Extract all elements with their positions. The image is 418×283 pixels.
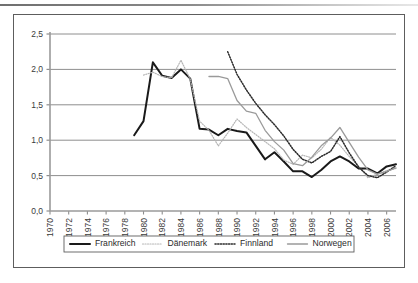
series-line-finnland <box>228 52 396 178</box>
x-axis-tick-label: 1994 <box>270 218 280 237</box>
x-axis-tick-label: 1980 <box>139 218 149 237</box>
x-axis-tick-label: 1972 <box>64 218 74 237</box>
x-axis-tick-label: 1986 <box>195 218 205 237</box>
legend-label-dänemark[interactable]: Dänemark <box>168 238 208 248</box>
x-axis-tick-label: 1992 <box>251 218 261 237</box>
chart-legend: FrankreichDänemarkFinnlandNorwegen <box>64 236 354 252</box>
legend-label-finnland[interactable]: Finnland <box>240 238 273 248</box>
chart-figure: 0,00,51,01,52,02,5 197019721974197619781… <box>13 14 405 268</box>
x-axis-tick-labels: 1970197219741976197819801982198419861988… <box>45 218 392 237</box>
x-axis-tick-label: 1982 <box>157 218 167 237</box>
x-axis-tick-label: 2002 <box>344 218 354 237</box>
series-line-frankreich <box>134 62 396 177</box>
x-axis-tick-label: 1970 <box>45 218 55 237</box>
top-divider-rule <box>0 4 418 6</box>
legend-label-norwegen[interactable]: Norwegen <box>313 238 352 248</box>
x-axis-tick-label: 1990 <box>232 218 242 237</box>
x-axis-tick-label: 2006 <box>382 218 392 237</box>
y-axis-tick-label: 2,0 <box>31 64 43 74</box>
y-axis-tick-label: 1,5 <box>31 100 43 110</box>
x-axis-tick-label: 1976 <box>101 218 111 237</box>
data-series-group <box>134 52 396 178</box>
x-axis-tick-label: 2000 <box>326 218 336 237</box>
x-axis-tick-label: 1978 <box>120 218 130 237</box>
y-axis-tick-labels: 0,00,51,01,52,02,5 <box>31 29 43 216</box>
x-axis-tick-label: 1998 <box>307 218 317 237</box>
gridlines-group <box>47 34 397 211</box>
x-axis-tick-label: 1988 <box>214 218 224 237</box>
x-axis-tick-label: 1974 <box>83 218 93 237</box>
y-axis-tick-label: 0,0 <box>31 206 43 216</box>
legend-label-frankreich[interactable]: Frankreich <box>95 238 136 248</box>
y-axis-tick-label: 1,0 <box>31 135 43 145</box>
line-chart: 0,00,51,01,52,02,5 197019721974197619781… <box>14 15 404 267</box>
x-axis-tick-label: 1984 <box>176 218 186 237</box>
x-axis-tick-label: 1996 <box>288 218 298 237</box>
y-axis-tick-label: 2,5 <box>31 29 43 39</box>
y-axis-tick-label: 0,5 <box>31 171 43 181</box>
x-axis-tick-label: 2004 <box>363 218 373 237</box>
